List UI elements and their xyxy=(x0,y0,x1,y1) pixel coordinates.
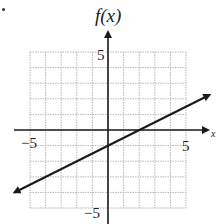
linear-function-graph: f(x) x 5 −5 −5 5 xyxy=(0,0,217,224)
x-axis-label: x xyxy=(210,128,216,139)
x-max-tick-label: 5 xyxy=(182,138,190,154)
y-max-tick-label: 5 xyxy=(97,47,105,63)
y-min-tick-label: −5 xyxy=(84,205,100,221)
x-min-tick-label: −5 xyxy=(21,135,37,151)
function-line xyxy=(14,95,209,192)
y-axis-label: f(x) xyxy=(95,5,121,27)
